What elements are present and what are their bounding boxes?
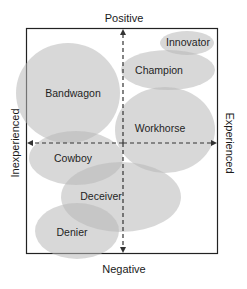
category-label-innovator: Innovator — [166, 36, 210, 48]
axis-label-positive: Positive — [105, 12, 144, 24]
category-label-deceiver: Deceiver — [80, 190, 122, 202]
category-label-bandwagon: Bandwagon — [45, 87, 101, 99]
category-label-cowboy: Cowboy — [54, 152, 93, 164]
experience-attitude-diagram: InnovatorChampionBandwagonWorkhorseCowbo… — [0, 0, 247, 289]
axis-label-inexperienced: Inexperienced — [9, 108, 21, 177]
axis-label-experienced: Experienced — [224, 112, 236, 173]
category-label-workhorse: Workhorse — [135, 122, 186, 134]
category-label-champion: Champion — [135, 64, 183, 76]
category-ellipses — [16, 31, 215, 259]
category-label-denier: Denier — [57, 226, 88, 238]
axis-label-negative: Negative — [102, 263, 145, 275]
